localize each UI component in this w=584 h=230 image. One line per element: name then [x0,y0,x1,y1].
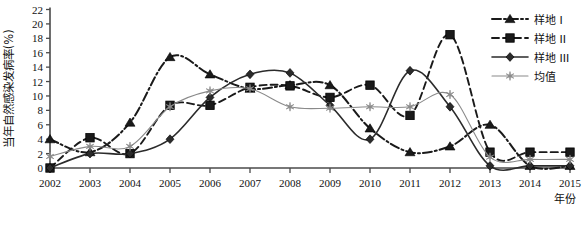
square-marker [506,34,514,42]
x-tick-label: 2006 [199,177,222,189]
y-tick-label: 18 [32,32,44,44]
x-tick-label: 2003 [79,177,102,189]
legend-label: 样地 II [534,32,566,46]
legend-item-3[interactable]: 样地 III [492,51,569,65]
data-point-marker [286,69,294,78]
diamond-marker [506,53,514,62]
diamond-marker [406,66,414,75]
y-tick-label: 2 [38,148,44,160]
x-tick-label: 2009 [319,177,342,189]
series-2 [46,31,574,173]
data-point-marker [286,102,294,111]
square-marker [446,31,454,39]
data-point-marker [86,134,94,142]
square-marker [206,101,214,109]
star-marker [206,87,214,96]
data-point-marker [446,90,454,99]
data-point-marker [326,93,334,101]
data-point-marker [446,31,454,39]
data-point-marker [325,81,335,89]
series-4 [46,84,574,163]
triangle-marker [325,81,335,89]
x-tick-label: 2011 [399,177,421,189]
legend-label: 样地 III [534,51,569,65]
diamond-marker [246,70,254,79]
legend-label: 均值 [534,71,556,84]
x-tick-label: 2015 [559,177,582,189]
y-tick-label: 6 [38,119,44,131]
star-marker [446,90,454,99]
series-group [45,31,575,173]
y-tick-label: 22 [32,4,43,16]
x-tick-label: 2002 [39,177,61,189]
data-point-marker [406,111,414,119]
legend: 样地 I样地 II样地 III均值 [492,13,569,84]
legend-label: 样地 I [534,13,563,27]
data-point-marker [406,66,414,75]
x-tick-label: 2010 [359,177,382,189]
square-marker [86,134,94,142]
y-tick-label: 20 [32,18,44,30]
y-axis-ticks: 0246810121416182022 [32,4,50,175]
y-tick-label: 16 [32,47,44,59]
square-marker [326,93,334,101]
legend-item-1[interactable]: 样地 I [492,13,563,27]
x-axis-title: 年份 [554,192,576,206]
y-tick-label: 12 [32,76,43,88]
diamond-marker [366,135,374,144]
square-marker [286,82,294,90]
y-tick-label: 10 [32,90,44,102]
triangle-marker [205,70,215,78]
chart-canvas: 0246810121416182022200220032004200520062… [0,0,584,230]
x-tick-label: 2005 [159,177,182,189]
square-marker [406,111,414,119]
data-point-marker [205,70,215,78]
y-axis-title: 当年自然感染发病率(%) [2,29,16,148]
data-point-marker [366,81,374,89]
star-marker [286,102,294,111]
data-point-marker [206,87,214,96]
x-tick-label: 2008 [279,177,302,189]
chart-figure: 0246810121416182022200220032004200520062… [0,0,584,230]
data-point-marker [506,34,514,42]
data-point-marker [286,82,294,90]
y-tick-label: 0 [38,162,44,174]
series-1 [45,52,575,169]
data-point-marker [366,135,374,144]
y-tick-label: 4 [38,133,44,145]
x-tick-label: 2014 [519,177,542,189]
legend-item-2[interactable]: 样地 II [492,32,566,46]
y-tick-label: 8 [38,104,44,116]
data-point-marker [506,53,514,62]
data-point-marker [206,101,214,109]
data-point-marker [246,70,254,79]
y-tick-label: 14 [32,61,44,73]
diamond-marker [286,69,294,78]
x-tick-label: 2004 [119,177,142,189]
x-tick-label: 2013 [479,177,502,189]
legend-item-4[interactable]: 均值 [492,71,556,84]
x-tick-label: 2007 [239,177,262,189]
x-axis-ticks: 2002200320042005200620072008200920102011… [39,168,582,189]
square-marker [366,81,374,89]
x-tick-label: 2012 [439,177,461,189]
